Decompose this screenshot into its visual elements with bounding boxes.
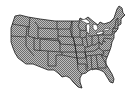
us-outline bbox=[11, 6, 125, 88]
us-map-svg bbox=[0, 0, 133, 92]
us-map bbox=[0, 0, 133, 92]
